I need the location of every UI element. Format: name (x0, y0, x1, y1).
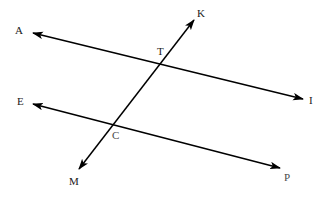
label-M: M (69, 176, 79, 187)
label-T: T (157, 46, 164, 57)
line-AI (33, 33, 303, 99)
line-EP (33, 104, 280, 168)
line-KM (79, 20, 194, 169)
geometry-canvas (0, 0, 330, 207)
lines-group (33, 20, 303, 169)
label-C: C (112, 130, 119, 141)
label-P: P (284, 172, 290, 183)
label-K: K (197, 8, 205, 19)
label-I: I (309, 95, 313, 106)
label-E: E (17, 96, 24, 107)
label-A: A (15, 25, 23, 36)
geometry-diagram: A K T I E C M P (0, 0, 330, 207)
